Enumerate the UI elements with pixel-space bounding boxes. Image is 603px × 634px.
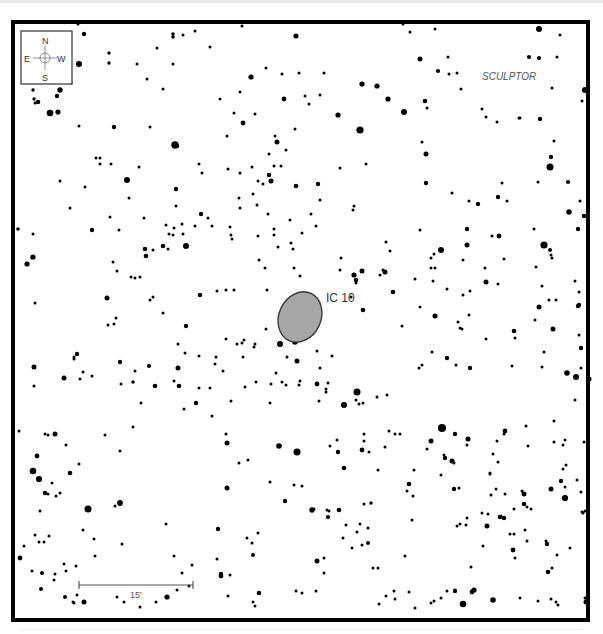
star bbox=[326, 515, 330, 519]
star bbox=[451, 192, 454, 195]
star bbox=[462, 294, 465, 297]
star bbox=[319, 94, 322, 97]
star bbox=[225, 486, 230, 491]
star bbox=[207, 217, 210, 220]
star bbox=[459, 523, 462, 526]
star bbox=[247, 459, 250, 462]
star bbox=[377, 469, 380, 472]
star bbox=[310, 213, 313, 216]
star bbox=[401, 109, 407, 115]
star bbox=[211, 225, 214, 228]
star bbox=[293, 267, 296, 270]
star bbox=[262, 183, 265, 186]
star bbox=[424, 181, 428, 185]
star bbox=[503, 258, 506, 261]
star bbox=[433, 253, 436, 256]
star bbox=[175, 205, 178, 208]
star bbox=[301, 485, 304, 488]
star bbox=[308, 103, 311, 106]
star bbox=[421, 364, 424, 367]
star bbox=[524, 529, 527, 532]
star bbox=[377, 567, 380, 570]
star bbox=[537, 305, 542, 310]
star bbox=[455, 364, 458, 367]
star bbox=[258, 259, 261, 262]
star bbox=[173, 380, 176, 383]
star bbox=[541, 285, 544, 288]
star bbox=[511, 548, 516, 553]
star bbox=[448, 73, 451, 76]
star bbox=[149, 126, 152, 129]
star bbox=[116, 596, 119, 599]
star bbox=[497, 283, 500, 286]
star bbox=[78, 125, 81, 128]
star bbox=[388, 430, 391, 433]
star bbox=[216, 558, 219, 561]
star bbox=[345, 524, 348, 527]
star bbox=[341, 402, 347, 408]
star bbox=[24, 261, 29, 266]
star bbox=[181, 572, 184, 575]
star bbox=[578, 291, 581, 294]
star bbox=[219, 98, 222, 101]
star bbox=[385, 241, 388, 244]
star bbox=[470, 566, 473, 569]
star bbox=[319, 367, 322, 370]
star bbox=[456, 72, 459, 75]
compass-north: N bbox=[42, 36, 49, 46]
star bbox=[362, 402, 365, 405]
star bbox=[358, 403, 361, 406]
star bbox=[545, 542, 549, 546]
star bbox=[254, 605, 257, 608]
star bbox=[171, 35, 175, 39]
star bbox=[535, 266, 538, 269]
star bbox=[93, 538, 96, 541]
star bbox=[551, 327, 556, 332]
star bbox=[285, 149, 288, 152]
star bbox=[299, 380, 302, 383]
star bbox=[53, 579, 56, 582]
star bbox=[325, 391, 328, 394]
star bbox=[559, 34, 562, 37]
star bbox=[241, 342, 244, 345]
star bbox=[407, 482, 412, 487]
star bbox=[412, 495, 415, 498]
star bbox=[323, 72, 326, 75]
star bbox=[120, 383, 123, 386]
star bbox=[225, 338, 228, 341]
star bbox=[152, 296, 155, 299]
star bbox=[267, 213, 270, 216]
star bbox=[153, 384, 158, 389]
star bbox=[530, 508, 533, 511]
star bbox=[146, 78, 149, 81]
star bbox=[82, 32, 86, 36]
star bbox=[43, 491, 48, 496]
star bbox=[109, 216, 112, 219]
star bbox=[547, 164, 554, 171]
star bbox=[222, 370, 225, 373]
star bbox=[152, 249, 155, 252]
star bbox=[553, 441, 556, 444]
star bbox=[257, 180, 260, 183]
star bbox=[482, 545, 485, 548]
star bbox=[55, 495, 58, 498]
star bbox=[484, 280, 489, 285]
star bbox=[574, 399, 577, 402]
star bbox=[323, 572, 326, 575]
star bbox=[432, 280, 435, 283]
star bbox=[183, 243, 189, 249]
star bbox=[495, 488, 498, 491]
star bbox=[30, 468, 37, 475]
star bbox=[225, 441, 230, 446]
star bbox=[315, 590, 318, 593]
star bbox=[34, 102, 37, 105]
star bbox=[229, 574, 232, 577]
star bbox=[538, 117, 542, 121]
star bbox=[134, 277, 137, 280]
star bbox=[456, 525, 459, 528]
star bbox=[434, 28, 437, 31]
star bbox=[290, 242, 293, 245]
star bbox=[107, 61, 110, 64]
star bbox=[295, 590, 298, 593]
star bbox=[363, 433, 366, 436]
